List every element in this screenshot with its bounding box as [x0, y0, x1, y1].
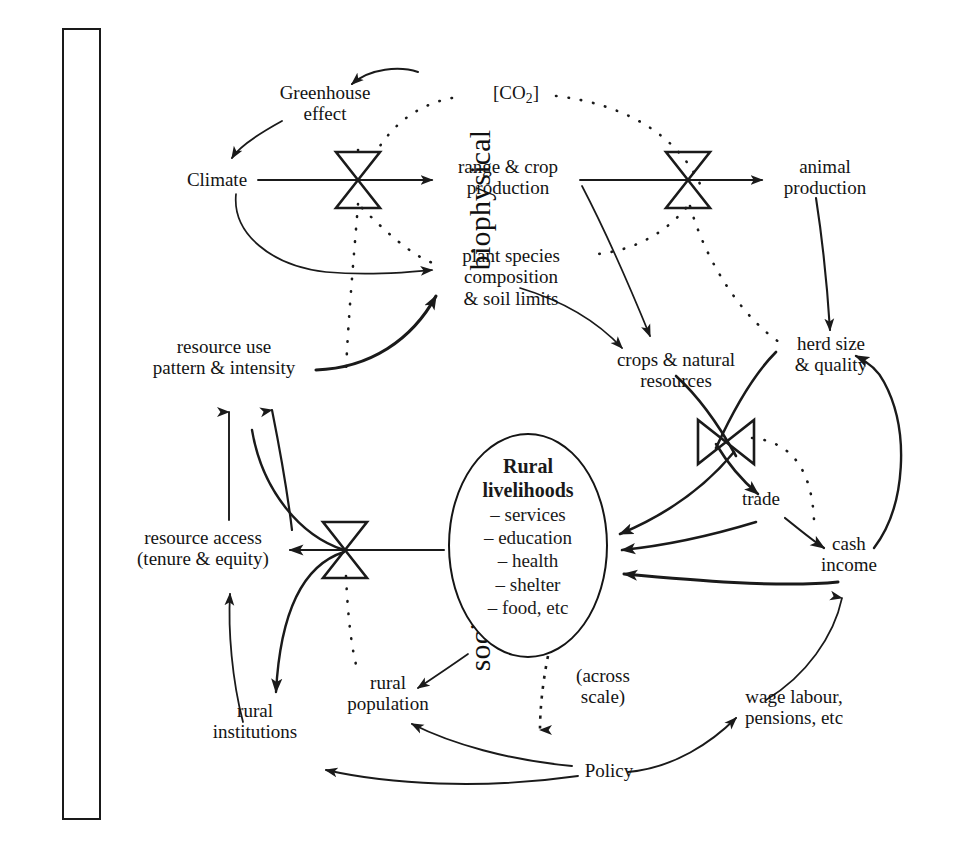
rural-livelihoods-title-line1: Rural [449, 455, 607, 477]
node-greenhouse-effect: Greenhouse effect [265, 82, 385, 125]
node-line: scale) [560, 686, 646, 707]
dotted-link-across-scale [540, 656, 548, 730]
valve-range-animal [666, 152, 710, 208]
link-trade-to-livelihoods [622, 522, 756, 550]
rural-livelihoods-title-line2: livelihoods [449, 479, 607, 501]
link-greenhouse-to-climate [232, 121, 282, 158]
node-across-scale: (across scale) [560, 665, 646, 708]
node-line: animal [766, 156, 884, 177]
node-plant-species: plant species composition & soil limits [438, 245, 584, 309]
node-co2: [CO2] [480, 82, 552, 106]
node-wage-labour: wage labour, pensions, etc [714, 686, 874, 729]
node-line: & quality [776, 354, 886, 375]
node-line: plant species [438, 245, 584, 266]
list-item: – food, etc [449, 596, 607, 619]
node-line: Greenhouse [265, 82, 385, 103]
link-policy-to-population [412, 724, 572, 766]
rural-livelihoods-list: – services – education – health – shelte… [449, 503, 607, 619]
list-item: – education [449, 526, 607, 549]
node-line: (across [560, 665, 646, 686]
node-line: wage labour, [714, 686, 874, 707]
node-line: herd size [776, 333, 886, 354]
node-line: population [330, 693, 446, 714]
valve-climate-range [336, 152, 380, 208]
node-line: Policy [578, 760, 640, 781]
node-line: (tenure & equity) [122, 548, 284, 569]
dotted-link-valve2-stem [690, 206, 782, 344]
node-animal-production: animal production [766, 156, 884, 199]
link-animal-to-herd [816, 198, 830, 330]
link-cash-to-herd [856, 356, 901, 548]
link-cash-to-livelihoods [624, 574, 838, 584]
dotted-link-valve4-to-population [346, 576, 358, 672]
node-line: & soil limits [438, 288, 584, 309]
link-valve-to-resource-use [272, 410, 292, 530]
node-line: income [812, 554, 886, 575]
node-herd-size: herd size & quality [776, 333, 886, 376]
node-line: effect [265, 103, 385, 124]
node-crops-natural-resources: crops & natural resources [592, 349, 760, 392]
node-line: production [437, 177, 579, 198]
node-line: cash [812, 533, 886, 554]
node-line: pensions, etc [714, 707, 874, 728]
dotted-link-valve1-to-plant [362, 208, 436, 264]
node-policy: Policy [578, 760, 640, 781]
node-climate: Climate [178, 169, 256, 190]
node-line: rural [192, 700, 318, 721]
node-line: trade [730, 488, 792, 509]
node-line: resource access [122, 527, 284, 548]
dotted-link-co2-left [380, 98, 452, 146]
node-resource-access: resource access (tenure & equity) [122, 527, 284, 570]
link-policy-to-institutions [326, 770, 578, 784]
list-item: – services [449, 503, 607, 526]
domain-axis-box [62, 28, 101, 820]
rural-livelihoods-content: Rural livelihoods – services – education… [449, 455, 607, 619]
node-cash-income: cash income [812, 533, 886, 576]
node-line: institutions [192, 721, 318, 742]
node-line: production [766, 177, 884, 198]
link-valve-to-livelihoods [620, 452, 734, 534]
node-trade: trade [730, 488, 792, 509]
node-line: [CO2] [493, 82, 539, 103]
link-wage-to-cash [766, 598, 842, 700]
node-line: crops & natural [592, 349, 760, 370]
node-line: rural [330, 672, 446, 693]
node-resource-use: resource use pattern & intensity [128, 336, 320, 379]
node-line: resource use [128, 336, 320, 357]
dotted-link-valve2-to-crops [598, 208, 686, 254]
node-line: range & crop [437, 156, 579, 177]
node-range-crop-production: range & crop production [437, 156, 579, 199]
list-item: – health [449, 549, 607, 572]
valve-crops-trade [698, 420, 754, 464]
list-item: – shelter [449, 573, 607, 596]
link-valve-to-trade [716, 444, 758, 494]
node-rural-population: rural population [330, 672, 446, 715]
node-line: composition [438, 266, 584, 287]
node-line: resources [592, 370, 760, 391]
dotted-link-valve1-stem [346, 204, 358, 372]
link-climate-to-plant-species [236, 194, 432, 274]
node-rural-institutions: rural institutions [192, 700, 318, 743]
link-range-to-crops [582, 186, 650, 336]
node-line: pattern & intensity [128, 357, 320, 378]
node-line: Climate [178, 169, 256, 190]
valve-resource-access [323, 522, 367, 578]
diagram-canvas: biophysical socioeconomic Rural liveliho… [0, 0, 960, 859]
link-resourceuse-to-plant-species [316, 296, 436, 370]
link-valve-to-institutions [276, 552, 344, 692]
